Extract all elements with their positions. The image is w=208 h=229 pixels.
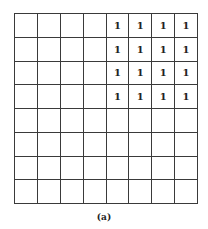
grid-cell-r3-c4: 1 [106, 84, 129, 108]
grid-cell-r6-c5 [128, 156, 151, 180]
grid-8x8: 1111111111111111 [14, 13, 198, 204]
grid-cell-r6-c3 [83, 156, 106, 180]
grid-cell-r1-c2 [60, 37, 83, 61]
grid-cell-r7-c3 [83, 179, 106, 203]
grid-cell-r6-c6 [151, 156, 174, 180]
grid-cell-r1-c7: 1 [174, 37, 197, 61]
grid-cell-r6-c2 [60, 156, 83, 180]
grid-cell-r5-c0 [14, 132, 37, 156]
grid-cell-r2-c2 [60, 61, 83, 85]
grid-cell-r1-c1 [37, 37, 60, 61]
grid-cell-r4-c5 [128, 108, 151, 132]
grid-cell-r1-c6: 1 [151, 37, 174, 61]
grid-cell-r7-c1 [37, 179, 60, 203]
grid-cell-r3-c3 [83, 84, 106, 108]
grid-cell-r7-c7 [174, 179, 197, 203]
figure-caption: (a) [0, 212, 208, 222]
grid-cell-r4-c2 [60, 108, 83, 132]
grid-cell-r2-c3 [83, 61, 106, 85]
grid-cell-r0-c3 [83, 13, 106, 37]
grid-cell-r4-c7 [174, 108, 197, 132]
grid-cell-r2-c7: 1 [174, 61, 197, 85]
grid-cell-r7-c6 [151, 179, 174, 203]
grid-cell-r1-c0 [14, 37, 37, 61]
grid-cell-r7-c5 [128, 179, 151, 203]
grid-cell-r5-c2 [60, 132, 83, 156]
grid-cell-r2-c0 [14, 61, 37, 85]
grid-cell-r0-c0 [14, 13, 37, 37]
grid-cell-r5-c7 [174, 132, 197, 156]
grid-cell-r1-c3 [83, 37, 106, 61]
grid-cell-r5-c3 [83, 132, 106, 156]
grid-cell-r4-c3 [83, 108, 106, 132]
grid-cell-r0-c4: 1 [106, 13, 129, 37]
grid-cell-r6-c0 [14, 156, 37, 180]
grid-cell-r7-c0 [14, 179, 37, 203]
grid-cell-r1-c5: 1 [128, 37, 151, 61]
grid-cell-r6-c1 [37, 156, 60, 180]
grid-cell-r1-c4: 1 [106, 37, 129, 61]
grid-cell-r0-c7: 1 [174, 13, 197, 37]
grid-cell-r5-c1 [37, 132, 60, 156]
grid-cell-r5-c4 [106, 132, 129, 156]
grid-cell-r3-c1 [37, 84, 60, 108]
grid-cell-r3-c7: 1 [174, 84, 197, 108]
grid-cell-r4-c1 [37, 108, 60, 132]
grid-cell-r2-c6: 1 [151, 61, 174, 85]
grid-cell-r2-c1 [37, 61, 60, 85]
grid-cell-r2-c5: 1 [128, 61, 151, 85]
grid-cell-r3-c2 [60, 84, 83, 108]
grid-cell-r6-c7 [174, 156, 197, 180]
grid-cell-r3-c6: 1 [151, 84, 174, 108]
grid-cell-r4-c4 [106, 108, 129, 132]
grid-cell-r6-c4 [106, 156, 129, 180]
grid-cell-r5-c5 [128, 132, 151, 156]
grid-cell-r4-c0 [14, 108, 37, 132]
grid-cell-r4-c6 [151, 108, 174, 132]
grid-cell-r7-c2 [60, 179, 83, 203]
grid-cell-r7-c4 [106, 179, 129, 203]
grid-cell-r2-c4: 1 [106, 61, 129, 85]
grid-cell-r0-c5: 1 [128, 13, 151, 37]
grid-cell-r3-c5: 1 [128, 84, 151, 108]
grid-cell-r0-c6: 1 [151, 13, 174, 37]
grid-cell-r3-c0 [14, 84, 37, 108]
grid-cell-r0-c1 [37, 13, 60, 37]
grid-cell-r5-c6 [151, 132, 174, 156]
grid-cell-r0-c2 [60, 13, 83, 37]
